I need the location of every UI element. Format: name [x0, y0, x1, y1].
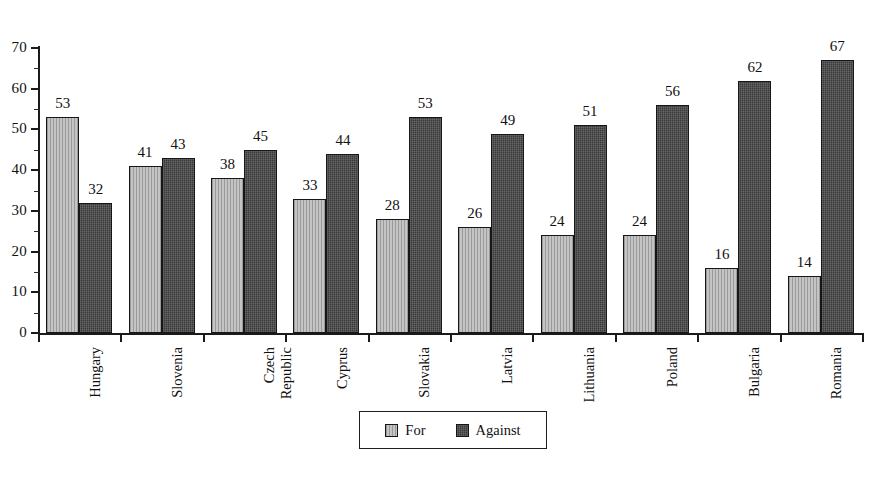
category-label-line: Poland [665, 347, 680, 467]
bar-slovakia-for [376, 219, 409, 333]
category-label-bulgaria: Bulgaria [747, 347, 762, 467]
x-tick-7 [615, 333, 617, 342]
category-label-line: Republic [278, 347, 295, 467]
category-label-slovakia: Slovakia [417, 347, 432, 467]
bar-bulgaria-for [705, 268, 738, 333]
category-label-line: Lithuania [582, 347, 597, 467]
dark-hatch-swatch [456, 424, 469, 437]
category-label-latvia: Latvia [500, 347, 515, 467]
y-tick-label-50: 50 [0, 121, 27, 136]
bar-czech-republic-for [211, 178, 244, 333]
data-label-czech-republic-against: 45 [238, 129, 283, 144]
chart-legend: For Against [359, 411, 547, 449]
data-label-czech-republic-for: 38 [205, 157, 250, 172]
x-tick-2 [203, 333, 205, 342]
data-label-slovakia-for: 28 [370, 198, 415, 213]
bar-hungary-against [79, 203, 112, 333]
x-tick-4 [368, 333, 370, 342]
y-tick-label-30: 30 [0, 203, 27, 218]
bar-slovenia-against [162, 158, 195, 333]
data-label-cyprus-for: 33 [287, 178, 332, 193]
bar-slovakia-against [409, 117, 442, 333]
category-label-slovenia: Slovenia [170, 347, 185, 467]
category-label-lithuania: Lithuania [582, 347, 597, 467]
data-label-cyprus-against: 44 [320, 133, 365, 148]
category-label-line: Latvia [500, 347, 515, 467]
category-label-poland: Poland [665, 347, 680, 467]
data-label-hungary-for: 53 [40, 96, 85, 111]
category-label-line: Cyprus [335, 347, 350, 467]
data-label-latvia-for: 26 [452, 206, 497, 221]
bar-romania-for [788, 276, 821, 333]
x-tick-0 [38, 333, 40, 342]
data-label-romania-against: 67 [815, 39, 860, 54]
data-label-lithuania-for: 24 [535, 214, 580, 229]
bar-poland-for [623, 235, 656, 333]
x-tick-6 [532, 333, 534, 342]
y-tick-label-10: 10 [0, 284, 27, 299]
bar-latvia-for [458, 227, 491, 333]
legend-label-against: Against [476, 423, 521, 438]
data-label-slovenia-against: 43 [156, 137, 201, 152]
category-label-line: Bulgaria [747, 347, 762, 467]
bar-romania-against [821, 60, 854, 333]
category-label-cyprus: Cyprus [335, 347, 350, 467]
legend-item-for: For [385, 423, 425, 438]
y-tick-label-60: 60 [0, 81, 27, 96]
data-label-romania-for: 14 [782, 255, 827, 270]
legend-label-for: For [405, 423, 425, 438]
x-tick-3 [285, 333, 287, 342]
data-label-bulgaria-against: 62 [732, 60, 777, 75]
light-hatch-swatch [385, 424, 398, 437]
data-label-hungary-against: 32 [73, 182, 118, 197]
y-tick-label-20: 20 [0, 244, 27, 259]
y-tick-label-70: 70 [0, 40, 27, 55]
x-tick-1 [120, 333, 122, 342]
y-tick-label-40: 40 [0, 162, 27, 177]
data-label-poland-against: 56 [650, 84, 695, 99]
bar-hungary-for [46, 117, 79, 333]
category-label-line: Romania [829, 347, 844, 467]
data-label-slovakia-against: 53 [403, 96, 448, 111]
category-label-line: Czech [261, 347, 278, 467]
bar-czech-republic-against [244, 150, 277, 333]
legend-item-against: Against [456, 423, 521, 438]
x-tick-8 [697, 333, 699, 342]
category-label-line: Slovakia [417, 347, 432, 467]
y-tick-label-0: 0 [0, 325, 27, 340]
x-tick-9 [780, 333, 782, 342]
bar-lithuania-for [541, 235, 574, 333]
category-label-line: Slovenia [170, 347, 185, 467]
category-label-romania: Romania [829, 347, 844, 467]
x-tick-5 [450, 333, 452, 342]
category-label-hungary: Hungary [88, 347, 103, 467]
category-label-line: Hungary [88, 347, 103, 467]
category-label-czech-republic: CzechRepublic [261, 347, 295, 467]
bar-slovenia-for [129, 166, 162, 333]
bar-chart: 010203040506070 533241433845334428532649… [0, 0, 878, 480]
bar-cyprus-for [293, 199, 326, 333]
bar-bulgaria-against [738, 81, 771, 333]
data-label-bulgaria-for: 16 [699, 247, 744, 262]
plot-area [38, 48, 862, 333]
x-tick-10 [862, 333, 864, 342]
data-label-poland-for: 24 [617, 214, 662, 229]
bar-latvia-against [491, 134, 524, 334]
data-label-latvia-against: 49 [485, 113, 530, 128]
data-label-lithuania-against: 51 [568, 104, 613, 119]
